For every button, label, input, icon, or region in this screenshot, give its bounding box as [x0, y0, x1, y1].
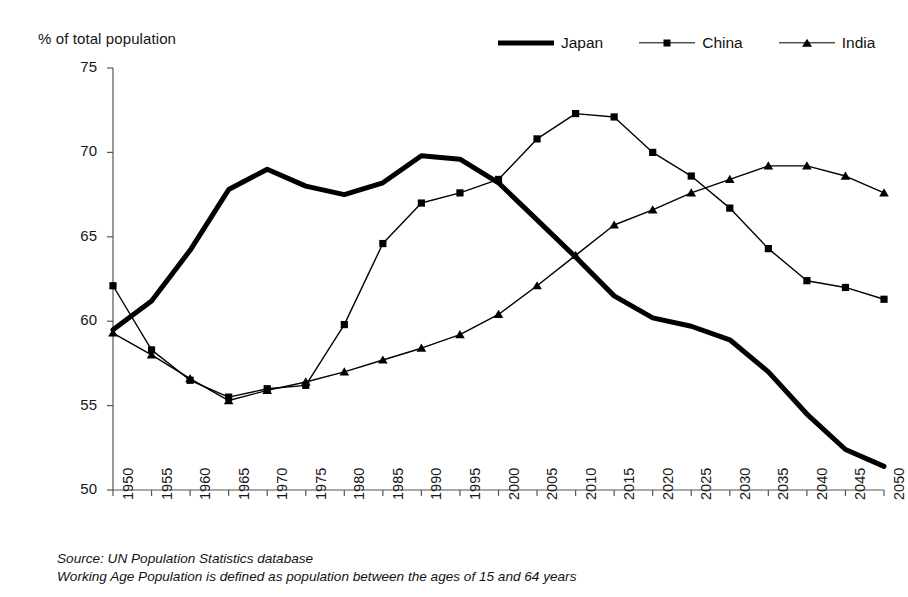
x-tick-label: 2030 [737, 468, 753, 500]
data-point-marker [879, 188, 889, 196]
data-point-marker [880, 296, 887, 303]
data-point-marker [765, 245, 772, 252]
y-tick-label: 65 [57, 227, 97, 244]
x-tick-label: 2010 [583, 468, 599, 500]
x-tick-label: 1965 [236, 468, 252, 500]
y-tick-label: 50 [57, 480, 97, 497]
source-note: Source: UN Population Statistics databas… [57, 550, 576, 568]
series-line-china [113, 114, 884, 398]
y-tick-label: 70 [57, 142, 97, 159]
data-point-marker [456, 189, 463, 196]
definition-note: Working Age Population is defined as pop… [57, 568, 576, 586]
data-point-marker [418, 199, 425, 206]
x-tick-label: 2025 [698, 468, 714, 500]
data-point-marker [649, 149, 656, 156]
x-tick-label: 2045 [852, 468, 868, 500]
y-tick-label: 55 [57, 396, 97, 413]
x-tick-label: 2000 [506, 468, 522, 500]
x-tick-label: 2020 [660, 468, 676, 500]
x-tick-label: 1990 [428, 468, 444, 500]
x-tick-label: 1995 [467, 468, 483, 500]
x-tick-label: 1970 [274, 468, 290, 500]
data-point-marker [842, 284, 849, 291]
x-tick-label: 1950 [120, 468, 136, 500]
data-point-marker [572, 110, 579, 117]
x-tick-label: 1955 [159, 468, 175, 500]
data-point-marker [455, 330, 465, 338]
x-tick-label: 2040 [814, 468, 830, 500]
data-point-marker [726, 205, 733, 212]
x-tick-label: 2005 [544, 468, 560, 500]
data-point-marker [341, 321, 348, 328]
axis-spines [113, 68, 884, 490]
x-tick-label: 2015 [621, 468, 637, 500]
chart-footnotes: Source: UN Population Statistics databas… [57, 550, 576, 585]
data-point-marker [379, 240, 386, 247]
x-tick-label: 1980 [351, 468, 367, 500]
data-point-marker [609, 220, 619, 228]
x-tick-label: 1985 [390, 468, 406, 500]
y-tick-label: 60 [57, 311, 97, 328]
x-tick-label: 1960 [197, 468, 213, 500]
x-tick-label: 1975 [313, 468, 329, 500]
data-point-marker [495, 176, 502, 183]
data-point-marker [533, 135, 540, 142]
data-point-marker [688, 172, 695, 179]
data-point-marker [648, 205, 658, 213]
plot-area [0, 0, 908, 597]
x-tick-label: 2035 [775, 468, 791, 500]
data-point-marker [109, 282, 116, 289]
chart-container: % of total population Japan China India … [0, 0, 908, 597]
x-tick-label: 2050 [891, 468, 907, 500]
series-line-india [113, 166, 884, 401]
data-point-marker [611, 113, 618, 120]
data-point-marker [803, 277, 810, 284]
y-tick-label: 75 [57, 58, 97, 75]
